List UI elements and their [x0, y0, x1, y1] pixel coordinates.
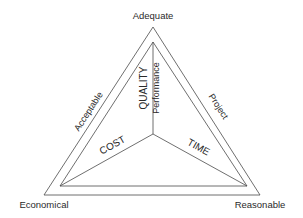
corner-label-top: Adequate: [133, 10, 174, 21]
performance-label: Performance: [151, 62, 161, 114]
project-triangle-diagram: Adequate Economical Reasonable Acceptabl…: [0, 0, 303, 218]
cost-label: COST: [97, 133, 127, 156]
corner-label-bottom-left: Economical: [19, 199, 68, 210]
corner-label-bottom-right: Reasonable: [235, 199, 286, 210]
quality-label: QUALITY: [138, 66, 149, 109]
